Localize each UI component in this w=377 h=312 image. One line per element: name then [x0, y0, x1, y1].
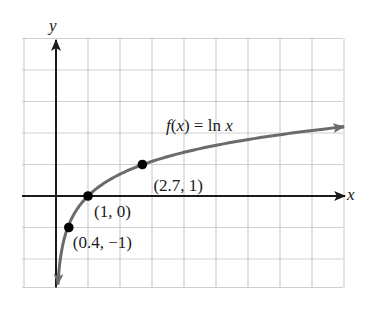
function-label: f(x) = ln x — [166, 116, 233, 135]
x-axis-label: x — [346, 185, 355, 204]
data-point — [138, 160, 148, 170]
point-label: (1, 0) — [94, 202, 131, 221]
data-point — [83, 191, 93, 201]
function-arg-2: x — [224, 116, 233, 135]
point-label: (0.4, −1) — [73, 233, 132, 252]
grid-lines — [22, 39, 344, 288]
data-points: (0.4, −1)(1, 0)(2.7, 1) — [64, 160, 203, 252]
point-label: (2.7, 1) — [153, 176, 203, 195]
data-point — [64, 223, 74, 233]
curve-arrow-right — [339, 127, 344, 128]
function-rest: ) = ln — [184, 116, 225, 135]
ln-graph: x y f(x) = ln x (0.4, −1)(1, 0)(2.7, 1) — [0, 0, 377, 312]
chart-canvas: x y f(x) = ln x (0.4, −1)(1, 0)(2.7, 1) — [0, 0, 377, 312]
y-axis-label: y — [47, 16, 57, 35]
